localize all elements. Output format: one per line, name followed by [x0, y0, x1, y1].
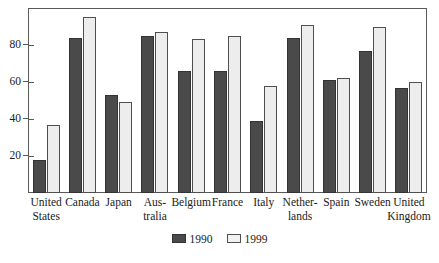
- bar: [83, 17, 96, 193]
- chart-legend: 19901999: [0, 231, 439, 245]
- bar: [409, 82, 422, 193]
- bar: [119, 102, 132, 193]
- bar: [264, 86, 277, 193]
- x-axis-category-label: United Kingdom: [383, 196, 435, 223]
- bar: [155, 32, 168, 193]
- bar: [69, 38, 82, 193]
- bar: [395, 88, 408, 193]
- y-axis-tick-label: 20: [10, 148, 22, 163]
- legend-item: 1999: [227, 232, 268, 245]
- bar: [47, 125, 60, 193]
- bar: [337, 78, 350, 193]
- dark-swatch: [172, 234, 186, 243]
- bar: [250, 121, 263, 193]
- bar: [301, 25, 314, 193]
- bar: [373, 27, 386, 194]
- bar: [178, 71, 191, 193]
- grouped-bar-chart: 20406080 United StatesCanadaJapanAus- tr…: [0, 0, 439, 263]
- bar: [323, 80, 336, 193]
- bar: [287, 38, 300, 193]
- y-axis: 20406080: [0, 0, 28, 263]
- legend-item-label: 1990: [190, 233, 213, 245]
- bar: [192, 39, 205, 193]
- bar: [105, 95, 118, 193]
- bar: [359, 51, 372, 193]
- bar: [214, 71, 227, 193]
- light-swatch: [227, 234, 241, 243]
- bar: [228, 36, 241, 193]
- bars-layer: [28, 8, 427, 193]
- legend-item: 1990: [172, 232, 213, 245]
- y-axis-tick-label: 40: [10, 111, 22, 126]
- y-axis-tick-label: 60: [10, 74, 22, 89]
- legend-item-label: 1999: [245, 233, 268, 245]
- x-axis-labels: United StatesCanadaJapanAus- traliaBelgi…: [28, 196, 427, 230]
- y-axis-tick-label: 80: [10, 37, 22, 52]
- bar: [33, 160, 46, 193]
- bar: [141, 36, 154, 193]
